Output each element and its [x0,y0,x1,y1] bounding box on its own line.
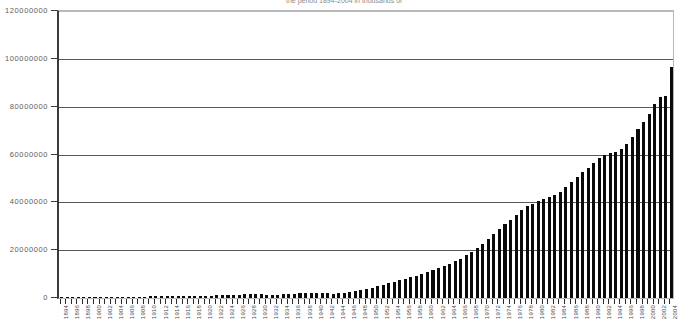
x-tick-label: 1960 [428,305,434,319]
x-tick-mark [425,299,426,304]
bar [398,280,401,298]
x-tick-mark [326,299,327,304]
bar [132,297,135,298]
x-tick-mark [292,299,293,304]
bar [454,261,457,298]
x-tick-mark [254,299,255,304]
bar [304,293,307,298]
bar [332,294,335,298]
x-tick-label: 1992 [606,305,612,319]
x-tick-mark [669,299,670,304]
bar [210,296,213,298]
bar [116,297,119,298]
x-tick-mark [542,299,543,304]
bar [326,293,329,298]
x-tick-mark [558,299,559,304]
x-tick-label: 1970 [484,305,490,319]
gridline [59,107,673,108]
x-tick-mark [420,299,421,304]
x-tick-mark [198,299,199,304]
x-tick-label: 1956 [406,305,412,319]
x-tick-mark [514,299,515,304]
x-tick-label: 1928 [251,305,257,319]
x-tick-label: 1900 [96,305,102,319]
x-tick-mark [132,299,133,304]
x-tick-label: 1994 [617,305,623,319]
bar [287,294,290,298]
x-tick-mark [265,299,266,304]
x-tick-label: 1912 [163,305,169,319]
bar [420,274,423,298]
x-tick-mark [60,299,61,304]
bar [448,264,451,298]
bar [625,144,628,298]
bar [149,296,152,298]
x-tick-label: 1902 [107,305,113,319]
x-tick-label: 1914 [174,305,180,319]
bar [110,297,113,298]
bar [487,239,490,298]
bar [531,204,534,298]
x-tick-mark [492,299,493,304]
x-tick-mark [182,299,183,304]
y-tick-label: 0 [43,293,48,302]
bar [282,294,285,298]
x-tick-mark [630,299,631,304]
bar [465,255,468,298]
x-tick-label: 1988 [584,305,590,319]
x-tick-mark [509,299,510,304]
bar [393,282,396,298]
x-tick-label: 1926 [240,305,246,319]
bar [587,168,590,298]
bar [77,297,80,298]
x-tick-label: 1954 [395,305,401,319]
x-tick-label: 1896 [74,305,80,319]
x-tick-mark [65,299,66,304]
bar [254,294,257,298]
bar [526,206,529,298]
x-tick-mark [581,299,582,304]
bar [265,295,268,298]
x-tick-mark [575,299,576,304]
bar [537,201,540,298]
bar [659,97,662,298]
y-tick-label: 120000000 [5,6,48,15]
x-tick-mark [93,299,94,304]
bar [636,129,639,298]
x-tick-mark [520,299,521,304]
x-tick-mark [82,299,83,304]
bar [99,297,102,298]
x-tick-mark [392,299,393,304]
bar [609,153,612,298]
bar [415,276,418,298]
x-tick-label: 1934 [284,305,290,319]
x-tick-mark [154,299,155,304]
bar [177,296,180,298]
x-tick-label: 1942 [329,305,335,319]
x-tick-mark [503,299,504,304]
bar [82,297,85,298]
bar [354,291,357,298]
x-tick-mark [381,299,382,304]
bar [564,187,567,298]
x-tick-label: 1918 [196,305,202,319]
plot-frame [57,10,674,299]
bar [548,197,551,298]
x-tick-label: 1964 [451,305,457,319]
gridline [59,59,673,60]
bar [221,295,224,298]
x-tick-mark [193,299,194,304]
bar [71,297,74,298]
bar [559,192,562,298]
x-tick-mark [104,299,105,304]
x-tick-mark [525,299,526,304]
x-tick-label: 1972 [495,305,501,319]
x-tick-label: 1958 [417,305,423,319]
x-tick-mark [209,299,210,304]
x-tick-label: 1978 [528,305,534,319]
bar [592,163,595,298]
x-tick-mark [309,299,310,304]
x-tick-mark [497,299,498,304]
x-tick-label: 1938 [307,305,313,319]
x-tick-label: 1980 [539,305,545,319]
